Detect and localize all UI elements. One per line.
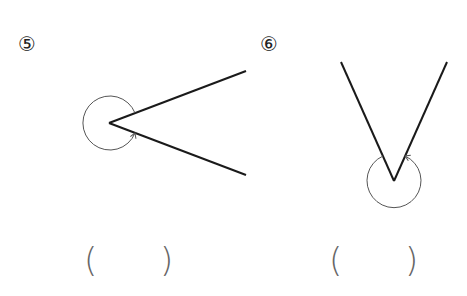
- problem-number-6: ⑥: [260, 32, 278, 56]
- answer-open-paren-6: (: [329, 240, 342, 280]
- reflex-angle-arc: [367, 156, 421, 208]
- angle-figure-5: [83, 71, 246, 175]
- ray-lower: [109, 123, 246, 175]
- ray-right: [394, 62, 447, 181]
- ray-upper: [109, 71, 246, 123]
- answer-close-paren-6: ): [405, 240, 418, 280]
- angle-diagrams: [0, 0, 467, 296]
- problem-number-5: ⑤: [18, 32, 36, 56]
- answer-close-paren-5: ): [160, 240, 173, 280]
- reflex-angle-arc: [83, 96, 135, 150]
- answer-open-paren-5: (: [84, 240, 97, 280]
- ray-left: [341, 62, 394, 181]
- angle-figure-6: [341, 62, 447, 208]
